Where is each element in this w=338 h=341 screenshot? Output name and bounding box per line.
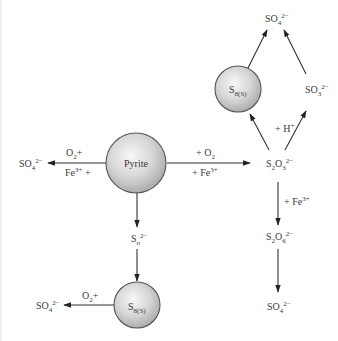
edge-label-o2-bottom: O2+ xyxy=(82,290,99,304)
s8-top-node: S8(S) xyxy=(215,66,261,112)
edge-label-o2-right: + O2 xyxy=(196,147,215,161)
pyrite-node: Pyrite xyxy=(106,133,166,193)
so4-bottom-left-label: SO42− xyxy=(36,299,60,314)
s8-bottom-sphere xyxy=(114,282,160,328)
so4-top-label: SO42− xyxy=(265,12,289,27)
edge-label-fe3-right: + Fe3+ xyxy=(192,166,218,178)
s8-bottom-node: S8(S) xyxy=(114,282,160,328)
arrow-s2o3-to-s8 xyxy=(250,114,269,150)
edge-label-fe3-down: + Fe3+ xyxy=(284,195,310,207)
reaction-diagram: Pyrite O2+ Fe3+ + SO42− + O2 + Fe3+ S2O3… xyxy=(0,0,338,341)
sn-label: Sn2− xyxy=(131,232,148,247)
s2o6-label: S2O62− xyxy=(266,230,293,245)
edge-label-h: + H+ xyxy=(275,122,294,134)
so4-bottom-right-label: SO42− xyxy=(267,300,291,315)
so4-left-label: SO42− xyxy=(19,157,43,172)
arrow-so3-to-so4-top xyxy=(284,30,306,74)
edge-label-fe3-left: Fe3+ + xyxy=(65,166,91,178)
s2o3-label: S2O32− xyxy=(266,157,293,172)
arrow-s8-to-so4-top xyxy=(248,30,267,68)
so3-label: SO32− xyxy=(305,83,329,98)
pyrite-label: Pyrite xyxy=(124,158,148,169)
edge-label-o2-left: O2+ xyxy=(66,147,83,161)
